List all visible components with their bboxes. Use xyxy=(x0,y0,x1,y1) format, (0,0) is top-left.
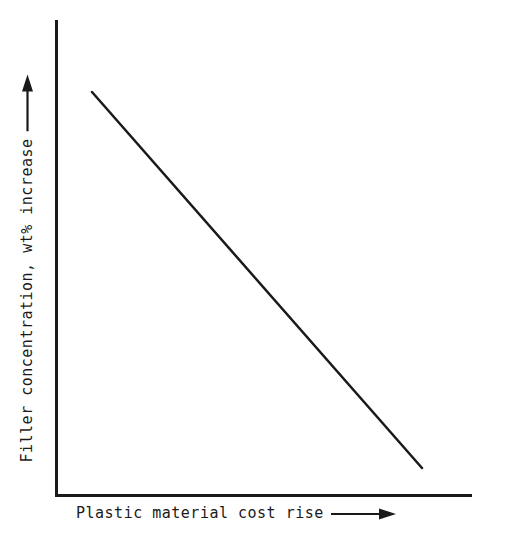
x-axis-label: Plastic material cost rise xyxy=(76,506,397,521)
chart-figure: Plastic material cost rise Filler concen… xyxy=(0,0,508,536)
y-axis-label: Filler concentration, wt% increase xyxy=(20,73,35,462)
x-axis-label-text: Plastic material cost rise xyxy=(76,506,324,521)
y-axis-label-text: Filler concentration, wt% increase xyxy=(20,138,35,462)
right-arrow-icon xyxy=(331,507,397,521)
data-line-filler-concentration xyxy=(92,92,422,468)
up-arrow-icon xyxy=(20,73,34,131)
plot-canvas xyxy=(0,0,508,536)
